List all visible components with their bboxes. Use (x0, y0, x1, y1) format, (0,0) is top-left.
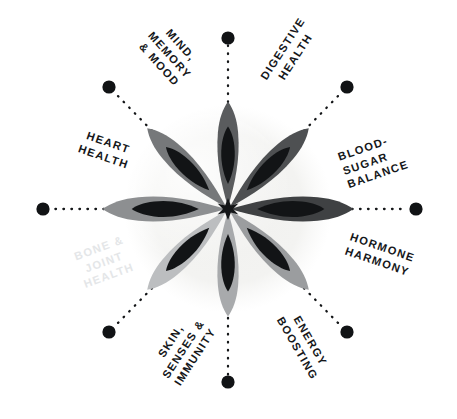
endpoint-s (221, 375, 234, 388)
endpoint-n (221, 31, 234, 44)
endpoint-nw (102, 80, 115, 93)
endpoint-w (36, 202, 49, 215)
endpoint-ne (340, 80, 353, 93)
endpoint-sw (102, 325, 115, 338)
diagram-canvas (0, 0, 457, 419)
endpoint-se (340, 325, 353, 338)
endpoint-e (409, 202, 422, 215)
radial-benefits-diagram: MIND, MEMORY & MOOD DIGESTIVE HEALTH BLO… (0, 0, 457, 419)
flower-motif (103, 101, 354, 316)
